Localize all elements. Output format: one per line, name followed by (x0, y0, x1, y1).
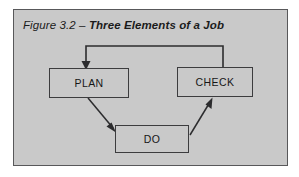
figure-frame: Figure 3.2 – Three Elements of a Job (13, 9, 288, 166)
screenshot-root: Figure 3.2 – Three Elements of a Job (0, 0, 299, 177)
edge-plan-to-do (88, 98, 116, 133)
node-check[interactable]: CHECK (177, 67, 253, 97)
node-do[interactable]: DO (115, 125, 189, 153)
edge-do-to-check (190, 98, 213, 136)
node-do-label: DO (144, 133, 161, 145)
node-plan[interactable]: PLAN (49, 68, 129, 98)
node-plan-label: PLAN (74, 77, 103, 89)
node-check-label: CHECK (196, 76, 235, 88)
